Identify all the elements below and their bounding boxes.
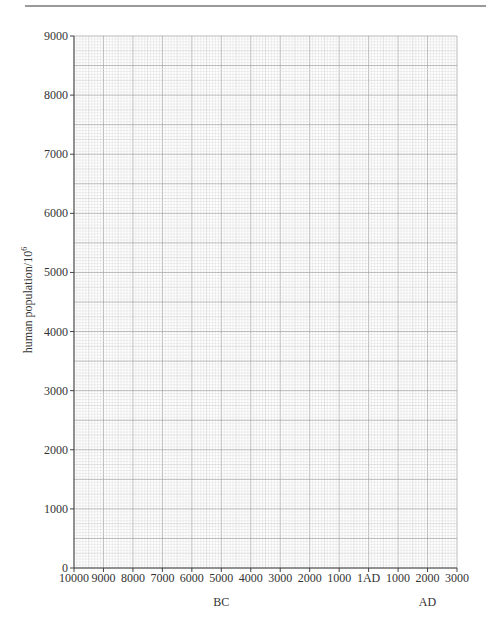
x-tick-label: 5000	[209, 571, 233, 585]
x-tick-label: 3000	[268, 571, 292, 585]
x-tick-label: 2000	[298, 571, 322, 585]
grid	[74, 36, 457, 568]
y-tick-label: 1000	[44, 502, 68, 516]
y-axis-ticks: 0100020003000400050006000700080009000	[44, 29, 74, 575]
y-tick-label: 3000	[44, 384, 68, 398]
x-tick-label: 1AD	[357, 571, 381, 585]
x-tick-label: 1000	[386, 571, 410, 585]
y-tick-label: 7000	[44, 147, 68, 161]
x-tick-label: 6000	[180, 571, 204, 585]
y-tick-label: 5000	[44, 265, 68, 279]
era-label-ad: AD	[419, 595, 437, 609]
y-tick-label: 4000	[44, 325, 68, 339]
x-tick-label: 3000	[445, 571, 469, 585]
graph-paper-chart: 0100020003000400050006000700080009000 10…	[0, 0, 486, 621]
y-tick-label: 2000	[44, 443, 68, 457]
y-axis-label: human population/106	[20, 247, 36, 353]
y-tick-label: 9000	[44, 29, 68, 43]
y-tick-label: 6000	[44, 206, 68, 220]
x-tick-label: 2000	[416, 571, 440, 585]
x-tick-label: 1000	[327, 571, 351, 585]
y-tick-label: 8000	[44, 88, 68, 102]
x-tick-label: 10000	[59, 571, 89, 585]
x-tick-label: 9000	[91, 571, 115, 585]
era-label-bc: BC	[213, 595, 229, 609]
x-axis-ticks: 1000090008000700060005000400030002000100…	[59, 568, 469, 609]
x-tick-label: 7000	[150, 571, 174, 585]
x-tick-label: 8000	[121, 571, 145, 585]
x-tick-label: 4000	[239, 571, 263, 585]
